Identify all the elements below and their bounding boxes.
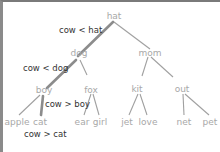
path-edge-boy-cat [41,96,43,115]
comparison-cow-lt-hat: cow < hat [59,26,102,35]
node-fox: fox [84,86,98,95]
node-dog: dog [71,49,88,58]
edge-boy-apple [19,95,40,115]
node-apple: apple [5,118,30,127]
edge-mom-out [151,57,173,77]
node-boy: boy [36,86,53,95]
edge-dog-fox [80,60,87,75]
node-out: out [175,85,190,94]
edge-fox-girl [93,94,99,115]
edge-kit-jet [129,94,138,115]
edge-kit-love [140,94,147,115]
node-net: net [177,118,192,127]
node-pet: pet [203,118,218,127]
node-girl: girl [93,118,107,127]
comparison-cow-gt-boy: cow > boy [45,100,90,109]
edge-out-net [183,94,184,115]
node-ear: ear [75,118,90,127]
comparison-cow-lt-dog: cow < dog [23,64,68,73]
edge-out-pet [185,94,209,115]
comparison-cow-gt-cat: cow > cat [24,130,67,139]
node-kit: kit [131,85,142,94]
node-love: love [139,118,158,127]
edge-mom-kit [142,57,148,76]
node-mom: mom [138,49,161,58]
node-hat: hat [107,12,122,21]
node-jet: jet [121,118,133,127]
node-cat: cat [33,118,47,127]
edge-hat-mom [114,22,150,49]
